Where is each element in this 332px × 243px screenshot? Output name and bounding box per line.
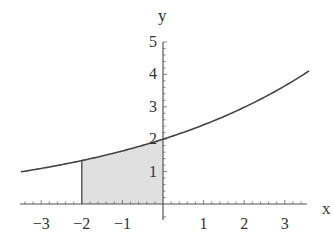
x-tick-label: 3 xyxy=(281,215,289,232)
x-tick-label: 2 xyxy=(240,215,248,232)
x-tick-label: 1 xyxy=(200,215,208,232)
x-axis-label: x xyxy=(322,199,331,218)
y-axis-label: y xyxy=(158,6,167,25)
y-tick-label: 1 xyxy=(149,163,157,180)
y-tick-label: 4 xyxy=(149,65,157,82)
function-plot: −3−2−112312345 x y xyxy=(0,0,332,243)
axes xyxy=(20,42,307,220)
curve-curve xyxy=(21,71,309,172)
function-curve xyxy=(21,71,309,172)
x-tick-label: −2 xyxy=(73,215,90,232)
y-tick-label: 2 xyxy=(149,130,157,147)
y-tick-label: 3 xyxy=(149,98,157,115)
x-tick-label: −3 xyxy=(33,215,50,232)
x-tick-label: −1 xyxy=(114,215,131,232)
y-tick-label: 5 xyxy=(149,33,157,50)
